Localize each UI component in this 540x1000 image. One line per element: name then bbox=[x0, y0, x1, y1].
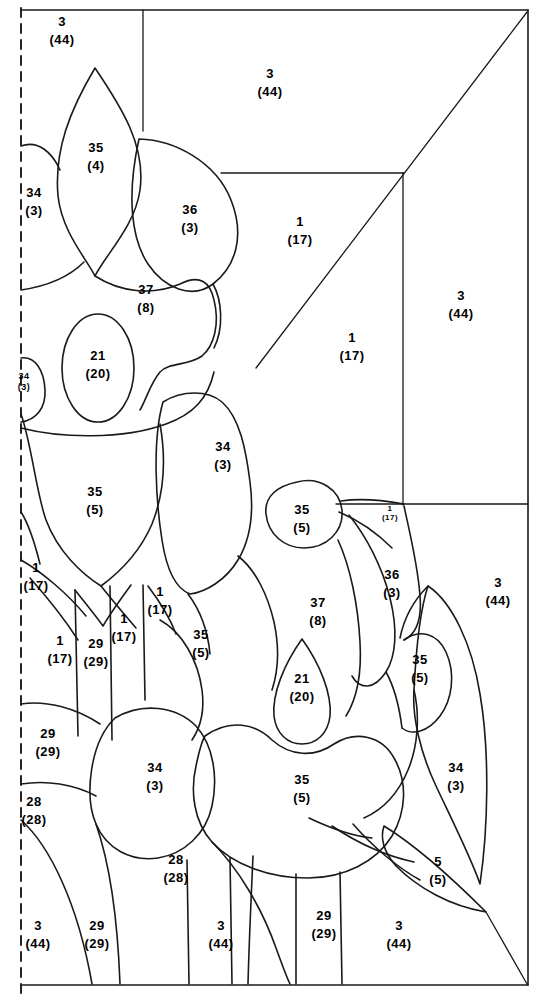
region-label-paren: (3) bbox=[447, 777, 464, 795]
region-label-number: 37 bbox=[309, 594, 326, 612]
region-label-number: 35 bbox=[86, 483, 103, 501]
region-label-number: 1 bbox=[23, 559, 48, 577]
region-label-paren: (17) bbox=[382, 513, 398, 522]
region-label-number: 3 bbox=[386, 917, 411, 935]
region-label-paren: (17) bbox=[339, 347, 364, 365]
region-label-paren: (17) bbox=[47, 650, 72, 668]
region-label-paren: (3) bbox=[18, 382, 31, 393]
region-label-3: 3(44) bbox=[448, 287, 473, 323]
region-label-5: 5(5) bbox=[429, 853, 446, 889]
bg-line-diagonal-lower bbox=[486, 912, 527, 984]
region-label-paren: (29) bbox=[83, 653, 108, 671]
region-label-number: 1 bbox=[47, 632, 72, 650]
curve-lower-left-f bbox=[96, 824, 120, 984]
region-label-35: 35(5) bbox=[293, 771, 310, 807]
curve-lower-left-c bbox=[21, 703, 100, 724]
region-label-29: 29(29) bbox=[35, 725, 60, 761]
stem-6 bbox=[248, 856, 253, 984]
region-label-34: 34(3) bbox=[214, 438, 231, 474]
stem-1 bbox=[75, 590, 78, 736]
region-label-paren: (17) bbox=[23, 577, 48, 595]
region-label-1: 1(17) bbox=[111, 610, 136, 646]
region-label-number: 29 bbox=[84, 917, 109, 935]
region-label-paren: (5) bbox=[411, 669, 428, 687]
region-label-paren: (20) bbox=[85, 365, 110, 383]
region-label-number: 35 bbox=[192, 626, 209, 644]
region-label-paren: (4) bbox=[87, 157, 104, 175]
region-label-number: 1 bbox=[111, 610, 136, 628]
region-label-36: 36(3) bbox=[181, 201, 198, 237]
region-label-3: 3(44) bbox=[485, 574, 510, 610]
region-label-number: 34 bbox=[214, 438, 231, 456]
region-label-paren: (29) bbox=[311, 925, 336, 943]
region-label-paren: (44) bbox=[448, 305, 473, 323]
region-label-number: 35 bbox=[87, 139, 104, 157]
region-label-paren: (17) bbox=[147, 601, 172, 619]
region-label-paren: (28) bbox=[163, 869, 188, 887]
region-label-paren: (5) bbox=[429, 871, 446, 889]
region-label-34: 34(3) bbox=[18, 371, 31, 393]
region-label-paren: (44) bbox=[25, 935, 50, 953]
region-label-3: 3(44) bbox=[25, 917, 50, 953]
line-drawing bbox=[0, 0, 540, 1000]
region-label-paren: (3) bbox=[146, 777, 163, 795]
region-label-number: 36 bbox=[383, 566, 400, 584]
region-label-number: 28 bbox=[21, 793, 46, 811]
region-label-paren: (8) bbox=[309, 612, 326, 630]
region-label-3: 3(44) bbox=[257, 65, 282, 101]
region-label-number: 29 bbox=[35, 725, 60, 743]
region-label-paren: (3) bbox=[25, 202, 42, 220]
region-label-paren: (17) bbox=[287, 231, 312, 249]
region-label-number: 21 bbox=[289, 670, 314, 688]
region-label-number: 3 bbox=[25, 917, 50, 935]
region-label-paren: (44) bbox=[208, 935, 233, 953]
region-label-1: 1(17) bbox=[23, 559, 48, 595]
region-label-29: 29(29) bbox=[84, 917, 109, 953]
region-label-1: 1(17) bbox=[339, 329, 364, 365]
region-label-36: 36(3) bbox=[383, 566, 400, 602]
region-label-paren: (17) bbox=[111, 628, 136, 646]
region-label-paren: (8) bbox=[137, 299, 154, 317]
leaf-35-5-left-inner bbox=[21, 512, 40, 564]
region-label-paren: (29) bbox=[84, 935, 109, 953]
region-label-paren: (20) bbox=[289, 688, 314, 706]
arc-34-upper-left bbox=[21, 144, 60, 170]
region-label-paren: (44) bbox=[257, 83, 282, 101]
region-label-28: 28(28) bbox=[21, 793, 46, 829]
region-label-3: 3(44) bbox=[208, 917, 233, 953]
region-label-number: 21 bbox=[85, 347, 110, 365]
region-label-number: 36 bbox=[181, 201, 198, 219]
region-label-number: 34 bbox=[146, 759, 163, 777]
region-label-number: 3 bbox=[257, 65, 282, 83]
region-label-number: 3 bbox=[208, 917, 233, 935]
region-label-34: 34(3) bbox=[25, 184, 42, 220]
region-label-number: 1 bbox=[147, 583, 172, 601]
region-37-8-upper bbox=[95, 276, 216, 410]
region-label-number: 3 bbox=[485, 574, 510, 592]
region-label-37: 37(8) bbox=[137, 281, 154, 317]
region-label-1: 1(17) bbox=[287, 213, 312, 249]
region-label-35: 35(5) bbox=[192, 626, 209, 662]
patent-figure: 3(44)3(44)35(4)34(3)36(3)1(17)3(44)37(8)… bbox=[0, 0, 540, 1000]
region-label-number: 3 bbox=[49, 13, 74, 31]
leaf-36-3-right-outer bbox=[404, 506, 420, 640]
region-label-paren: (5) bbox=[293, 519, 310, 537]
region-label-paren: (3) bbox=[383, 584, 400, 602]
region-label-34: 34(3) bbox=[447, 759, 464, 795]
region-label-number: 34 bbox=[447, 759, 464, 777]
region-label-number: 35 bbox=[411, 651, 428, 669]
region-label-number: 34 bbox=[18, 371, 31, 382]
region-label-3: 3(44) bbox=[49, 13, 74, 49]
region-label-paren: (29) bbox=[35, 743, 60, 761]
region-label-number: 3 bbox=[448, 287, 473, 305]
region-label-29: 29(29) bbox=[83, 635, 108, 671]
region-label-number: 5 bbox=[429, 853, 446, 871]
region-37-8-center-right bbox=[338, 540, 360, 716]
region-label-29: 29(29) bbox=[311, 907, 336, 943]
curve-under-21 bbox=[21, 372, 214, 436]
region-label-number: 35 bbox=[293, 771, 310, 789]
region-label-number: 37 bbox=[137, 281, 154, 299]
region-label-35: 35(5) bbox=[411, 651, 428, 687]
arc-34-upper-left-b bbox=[21, 262, 84, 290]
region-label-paren: (3) bbox=[181, 219, 198, 237]
